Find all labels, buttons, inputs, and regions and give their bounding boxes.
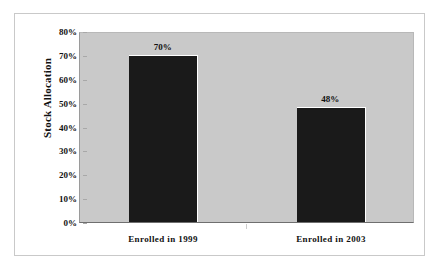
y-axis-tick-mark (83, 128, 87, 129)
y-axis-tick-mark (83, 80, 87, 81)
y-axis-tick-mark (83, 199, 87, 200)
y-axis-tick-label: 70% (47, 51, 77, 61)
y-axis-tick-mark (83, 32, 87, 33)
y-axis-tick-label: 20% (47, 170, 77, 180)
y-axis-tick-labels: 80%70%60%50%40%30%20%10%0% (47, 32, 77, 223)
y-axis-tick-label: 0% (47, 218, 77, 228)
y-axis-tick-mark (83, 175, 87, 176)
y-axis-tick-mark (83, 56, 87, 57)
y-axis-tick-label: 30% (47, 146, 77, 156)
y-axis-tick-label: 60% (47, 75, 77, 85)
y-axis-tick-mark (83, 104, 87, 105)
y-axis-tick-label: 50% (47, 99, 77, 109)
plot-area (79, 32, 414, 223)
bar-value-label: 48% (290, 94, 370, 104)
y-axis-tick-mark (83, 223, 87, 224)
y-axis-tick-mark (83, 151, 87, 152)
x-axis-tick-label: Enrolled in 1999 (79, 233, 247, 251)
chart-frame: Stock Allocation 80%70%60%50%40%30%20%10… (14, 13, 425, 256)
bar-value-label: 70% (123, 42, 203, 52)
y-axis-tick-label: 40% (47, 123, 77, 133)
x-axis-tick-label: Enrolled in 2003 (247, 233, 415, 251)
y-axis-tick-label: 10% (47, 194, 77, 204)
bar (297, 107, 366, 222)
x-axis-tick-labels: Enrolled in 1999Enrolled in 2003 (79, 233, 415, 251)
bar (129, 55, 198, 222)
x-axis-category-divider (246, 224, 247, 229)
y-axis-tick-label: 80% (47, 27, 77, 37)
